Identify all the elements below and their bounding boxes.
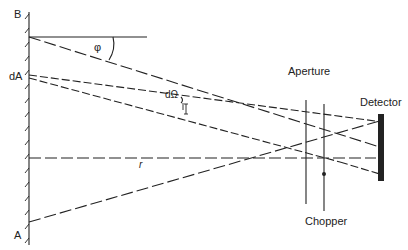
label-dA: dA — [9, 71, 22, 82]
label-dOmega: dΩ — [165, 90, 178, 100]
label-A: A — [14, 230, 21, 241]
label-detector: Detector — [360, 97, 402, 108]
dOmega-angle-marker — [181, 97, 183, 103]
label-phi: φ — [94, 42, 101, 53]
dA-ray-upper — [29, 75, 383, 122]
label-chopper: Chopper — [305, 216, 347, 227]
diagram-lines — [0, 0, 408, 250]
detector-element — [378, 114, 384, 181]
chopper-pivot — [322, 172, 326, 176]
phi-angle-arc — [109, 37, 114, 60]
label-aperture: Aperture — [288, 66, 330, 77]
label-B: B — [14, 9, 21, 20]
optical-setup-diagram: B dA A φ dΩ r Aperture Chopper Detector — [0, 0, 408, 250]
surface-hatching — [25, 14, 29, 243]
lower-edge-ray — [29, 120, 383, 222]
label-r: r — [139, 160, 142, 170]
